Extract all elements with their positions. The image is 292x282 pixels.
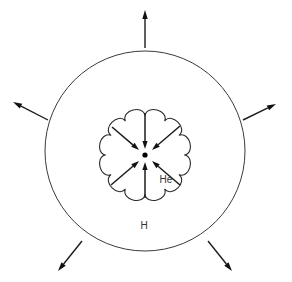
center-dot-shape [142, 152, 147, 157]
inward-arrow-top-head [142, 141, 147, 149]
inward-arrow-upper-right-shaft [158, 126, 180, 145]
outward-arrow-lower-left [58, 241, 82, 271]
outward-arrow-lower-right [208, 241, 232, 271]
outward-arrow-lower-right-shaft [208, 241, 226, 264]
helium-core-label: He [160, 174, 173, 185]
outward-arrow-upper-left [13, 102, 48, 120]
outward-arrow-upper-right-head [267, 104, 276, 110]
inward-arrow-upper-left-shaft [112, 127, 133, 145]
outward-arrow-upper-right [243, 104, 276, 120]
outward-arrow-upper-left-shaft [21, 106, 48, 120]
inward-arrow-bottom [142, 162, 147, 198]
inward-arrow-top [142, 113, 147, 149]
core-center-dot [142, 152, 147, 157]
hydrogen-shell-label: H [140, 220, 147, 231]
outward-arrow-upper-right-shaft [243, 108, 268, 120]
outward-arrow-lower-left-shaft [64, 241, 82, 264]
stellar-structure-diagram: H He [0, 0, 292, 282]
outward-arrow-upper-left-head [13, 102, 22, 109]
inward-arrow-upper-left [112, 127, 139, 150]
inward-arrow-lower-left-shaft [111, 166, 133, 185]
inward-arrow-upper-right [152, 126, 180, 150]
inward-arrow-lower-left [111, 161, 139, 185]
outward-arrow-top [142, 10, 147, 48]
inward-arrow-bottom-head [142, 162, 147, 170]
diagram-canvas: H He [0, 0, 292, 282]
outward-arrow-top-head [142, 10, 147, 19]
